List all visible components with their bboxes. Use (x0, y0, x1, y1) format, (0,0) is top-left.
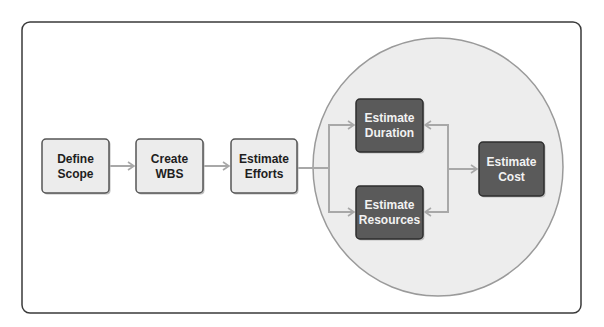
diagram-canvas: DefineScopeCreateWBSEstimateEffortsEstim… (0, 0, 604, 327)
node-label-line: Estimate (364, 111, 414, 125)
node-estimate-resources: EstimateResources (356, 186, 425, 241)
node-label-line: Efforts (245, 167, 284, 181)
node-label-line: Create (151, 152, 189, 166)
node-label-line: Duration (365, 126, 414, 140)
node-label-line: Estimate (486, 155, 536, 169)
node-estimate-efforts: EstimateEfforts (231, 139, 299, 195)
node-label-line: Estimate (239, 152, 289, 166)
node-create-wbs: CreateWBS (136, 139, 205, 195)
node-define-scope: DefineScope (42, 139, 111, 195)
node-label-line: Define (57, 152, 94, 166)
node-label-line: Scope (57, 167, 93, 181)
node-label-line: Cost (498, 170, 525, 184)
node-label-line: Estimate (364, 198, 414, 212)
node-label-line: Resources (359, 213, 421, 227)
node-estimate-duration: EstimateDuration (356, 99, 425, 154)
node-estimate-cost: EstimateCost (479, 142, 546, 198)
node-label-line: WBS (156, 167, 184, 181)
